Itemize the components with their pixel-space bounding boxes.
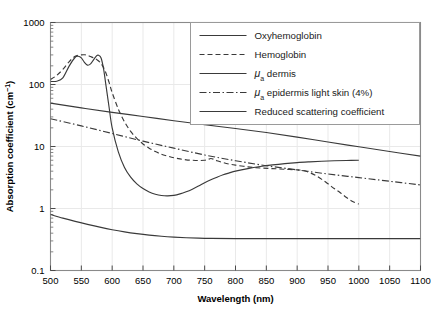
chart-canvas: 5005506006507007508008509009501000105011…: [0, 0, 448, 315]
legend-label-1: Hemoglobin: [255, 49, 307, 60]
x-axis-tick-label: 850: [258, 275, 274, 286]
y-axis-tick-label: 100: [29, 79, 45, 90]
y-axis-tick-label: 0.1: [31, 265, 44, 276]
x-axis-tick-label: 600: [104, 275, 120, 286]
y-axis-tick-label: 1000: [23, 17, 44, 28]
y-axis-title: Absorption coefficient (cm−1): [4, 81, 16, 213]
y-axis-tick-label: 10: [34, 141, 45, 152]
x-axis-tick-label: 950: [320, 275, 336, 286]
x-axis-tick-label: 500: [43, 275, 59, 286]
legend-label-4: Reduced scattering coefficient: [255, 106, 385, 117]
absorption-coefficient-chart: 5005506006507007508008509009501000105011…: [0, 0, 448, 315]
x-axis-tick-label: 1100: [410, 275, 430, 286]
x-axis-tick-label: 700: [166, 275, 182, 286]
x-axis-tick-label: 800: [228, 275, 244, 286]
legend-label-0: Oxyhemoglobin: [255, 30, 322, 41]
y-axis-tick-label: 1: [39, 203, 44, 214]
x-axis-tick-label: 750: [197, 275, 213, 286]
x-axis-tick-label: 1050: [379, 275, 400, 286]
x-axis-tick-label: 550: [73, 275, 89, 286]
x-axis-tick-label: 650: [135, 275, 151, 286]
x-axis-tick-label: 900: [289, 275, 305, 286]
x-axis-title: Wavelength (nm): [197, 293, 273, 304]
x-axis-tick-label: 1000: [348, 275, 369, 286]
